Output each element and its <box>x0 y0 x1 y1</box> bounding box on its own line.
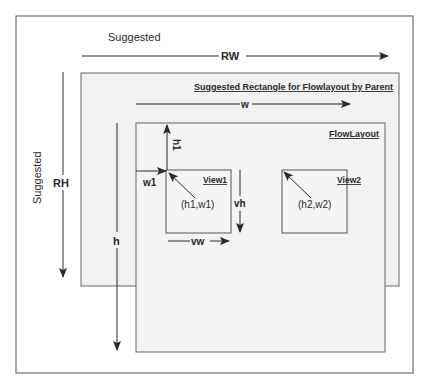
flowlayout-rectangle <box>136 123 385 352</box>
w-label: w <box>240 99 249 110</box>
h1-label: h1 <box>171 139 182 151</box>
view2-title: View2 <box>337 175 361 185</box>
suggested-side-label: Suggested <box>31 151 43 204</box>
h-label: h <box>113 235 120 247</box>
vh-label: vh <box>234 198 246 209</box>
flowlayout-diagram: Suggested RW Suggested Rectangle for Flo… <box>0 0 428 389</box>
point1-label: (h1,w1) <box>181 199 214 210</box>
rw-label: RW <box>221 50 240 62</box>
view1-title: View1 <box>203 175 227 185</box>
w1-label: w1 <box>142 177 157 188</box>
vw-label: vw <box>191 236 205 247</box>
rh-label: RH <box>53 177 69 189</box>
suggested-rectangle-title: Suggested Rectangle for Flowlayout by Pa… <box>194 82 393 92</box>
point2-label: (h2,w2) <box>298 199 331 210</box>
flowlayout-title: FlowLayout <box>329 129 379 139</box>
suggested-top-label: Suggested <box>108 31 161 43</box>
